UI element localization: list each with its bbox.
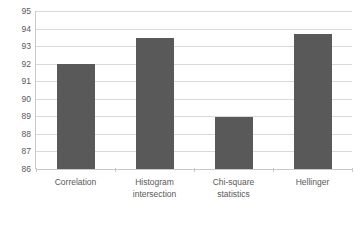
bar-slot <box>194 11 273 169</box>
bar-slot <box>115 11 194 169</box>
bar[interactable] <box>136 38 174 168</box>
y-tick-label: 90 <box>3 94 31 103</box>
y-axis-tick-labels: 86878889909192939495 <box>0 0 31 226</box>
y-tick-label: 89 <box>3 112 31 121</box>
bar-slot <box>273 11 352 169</box>
x-tick <box>36 168 37 172</box>
bar[interactable] <box>215 117 253 169</box>
plot-area <box>36 11 352 169</box>
y-tick-label: 88 <box>3 129 31 138</box>
y-tick-label: 92 <box>3 59 31 68</box>
x-category-label: Chi-square statistics <box>194 177 273 200</box>
y-tick-label: 86 <box>3 164 31 173</box>
x-category-label: Correlation <box>36 177 115 189</box>
x-tick <box>352 168 353 172</box>
y-tick-label: 93 <box>3 42 31 51</box>
y-tick-label: 95 <box>3 7 31 16</box>
x-tick <box>115 168 116 172</box>
x-category-label: Hellinger <box>273 177 352 189</box>
y-tick-label: 91 <box>3 77 31 86</box>
bar-chart: 86878889909192939495 CorrelationHistogra… <box>0 0 360 226</box>
bar[interactable] <box>57 64 95 169</box>
x-tick <box>273 168 274 172</box>
y-tick-label: 94 <box>3 24 31 33</box>
x-tick <box>194 168 195 172</box>
x-category-label: Histogram intersection <box>115 177 194 200</box>
bar[interactable] <box>294 34 332 169</box>
bar-slot <box>36 11 115 169</box>
x-axis-ticks <box>36 168 352 173</box>
x-axis-category-labels: CorrelationHistogram intersectionChi-squ… <box>36 177 352 217</box>
bars <box>36 11 352 169</box>
y-tick-label: 87 <box>3 147 31 156</box>
